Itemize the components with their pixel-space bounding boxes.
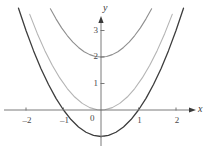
x-tick-label: 1 bbox=[134, 116, 146, 125]
y-axis-arrow bbox=[98, 16, 103, 23]
y-tick-label: 3 bbox=[90, 26, 98, 35]
plot-canvas bbox=[0, 0, 210, 150]
y-tick-label: 1 bbox=[90, 79, 98, 88]
x-axis-arrow bbox=[189, 107, 196, 112]
x-axis-label: x bbox=[198, 104, 202, 114]
y-axis-label: y bbox=[103, 3, 107, 13]
parabolas-figure: y x 0 –2–112 123 bbox=[0, 0, 210, 150]
x-tick-label: –2 bbox=[21, 116, 33, 125]
x-tick-label: 2 bbox=[171, 116, 183, 125]
origin-tick-label: 0 bbox=[90, 114, 95, 123]
y-tick-label: 2 bbox=[90, 52, 98, 61]
axes-group bbox=[4, 16, 196, 146]
x-tick-label: –1 bbox=[59, 116, 71, 125]
